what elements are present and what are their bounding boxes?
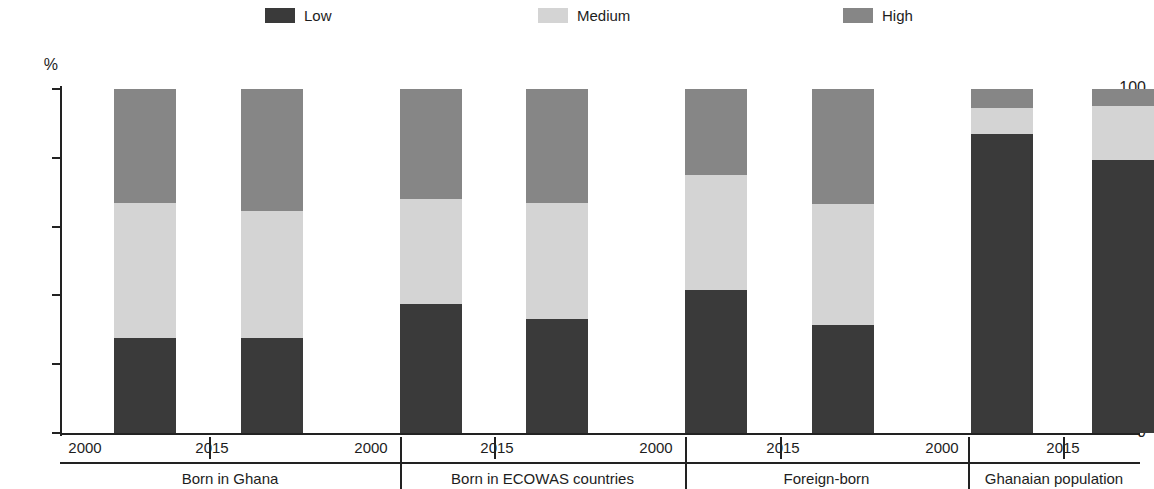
- bar-segment-low: [114, 338, 176, 433]
- x-axis-minor-tick: [209, 437, 211, 459]
- x-axis-year-label: 2015: [723, 435, 843, 461]
- x-axis-year-label: 2000: [882, 435, 1002, 461]
- x-axis-minor-tick: [780, 437, 782, 459]
- bar-segment-high: [812, 89, 874, 204]
- bar-segment-low: [400, 304, 462, 433]
- legend-item-high: High: [843, 8, 913, 23]
- x-axis-year-label: 2000: [311, 435, 431, 461]
- bar-segment-low: [241, 338, 303, 433]
- x-axis-group-label: Foreign-born: [685, 466, 968, 489]
- x-axis-year-label: 2015: [152, 435, 272, 461]
- x-axis-group-band: Born in GhanaBorn in ECOWAS countriesFor…: [60, 462, 1140, 489]
- legend-label-low: Low: [304, 8, 332, 23]
- bar-2: [241, 89, 303, 433]
- legend-swatch-high: [843, 8, 873, 23]
- x-axis-year-label: 2000: [25, 435, 145, 461]
- bar-6: [812, 89, 874, 433]
- x-axis-year-label: 2000: [596, 435, 716, 461]
- x-axis-group-label: Born in ECOWAS countries: [400, 466, 685, 489]
- bar-8: [1092, 89, 1154, 433]
- legend-label-high: High: [882, 8, 913, 23]
- bar-segment-medium: [400, 199, 462, 304]
- x-axis-group-label: Ghanaian population: [968, 466, 1140, 489]
- legend-swatch-low: [265, 8, 295, 23]
- bar-segment-medium: [812, 204, 874, 324]
- bar-3: [400, 89, 462, 433]
- bar-segment-low: [685, 290, 747, 433]
- bar-segment-medium: [241, 211, 303, 338]
- bar-segment-low: [526, 319, 588, 433]
- legend-label-medium: Medium: [577, 8, 630, 23]
- bar-segment-medium: [1092, 106, 1154, 159]
- bar-segment-medium: [685, 175, 747, 290]
- plot-area: [60, 89, 1140, 433]
- legend-swatch-medium: [538, 8, 568, 23]
- bar-segment-high: [400, 89, 462, 199]
- bar-segment-medium: [526, 203, 588, 320]
- bar-5: [685, 89, 747, 433]
- x-axis-year-label: 2015: [437, 435, 557, 461]
- bar-segment-medium: [971, 108, 1033, 134]
- bar-segment-high: [685, 89, 747, 175]
- bar-4: [526, 89, 588, 433]
- bar-1: [114, 89, 176, 433]
- y-axis-unit-label: %: [12, 57, 58, 73]
- bar-segment-high: [971, 89, 1033, 108]
- bar-segment-low: [812, 325, 874, 433]
- x-axis-group-label: Born in Ghana: [60, 466, 400, 489]
- bar-segment-medium: [114, 203, 176, 339]
- bar-segment-high: [114, 89, 176, 203]
- bar-segment-low: [1092, 160, 1154, 433]
- legend-item-medium: Medium: [538, 8, 630, 23]
- bar-segment-high: [241, 89, 303, 211]
- bar-7: [971, 89, 1033, 433]
- bar-segment-high: [1092, 89, 1154, 106]
- legend-item-low: Low: [265, 8, 332, 23]
- bar-segment-high: [526, 89, 588, 203]
- chart-legend: Low Medium High: [0, 8, 1146, 38]
- x-axis-minor-tick: [1063, 437, 1065, 459]
- x-axis-minor-tick: [494, 437, 496, 459]
- bar-segment-low: [971, 134, 1033, 433]
